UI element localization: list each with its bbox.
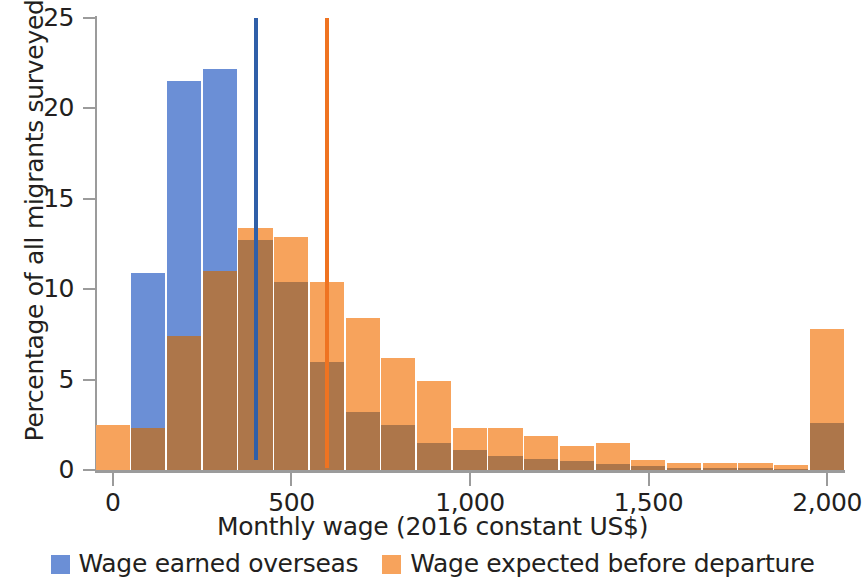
- legend-item[interactable]: Wage expected before departure: [382, 551, 814, 577]
- legend-item-label: Wage expected before departure: [410, 551, 814, 577]
- x-axis-tick: [112, 473, 114, 486]
- histogram-bar-overlap: [488, 456, 522, 470]
- x-axis-tick: [290, 473, 292, 486]
- histogram-bar-overlap: [381, 425, 415, 470]
- histogram-bar: [96, 425, 130, 470]
- histogram-bar-overlap: [417, 443, 451, 470]
- histogram-bar-overlap: [560, 461, 594, 470]
- median-wage-expected-before-departure: [325, 18, 329, 468]
- histogram-chart: 0510152025 Percentage of all migrants su…: [0, 0, 865, 585]
- y-axis-tick: [83, 469, 95, 471]
- histogram-bar-overlap: [167, 336, 201, 470]
- x-axis-tick: [648, 473, 650, 486]
- x-axis-tick: [826, 473, 828, 486]
- histogram-bar-overlap: [203, 271, 237, 470]
- y-axis-tick-label: 0: [30, 457, 74, 482]
- plot-area: [95, 18, 845, 470]
- y-axis-title: Percentage of all migrants surveyed: [21, 2, 48, 442]
- legend-item[interactable]: Wage earned overseas: [51, 551, 359, 577]
- histogram-bar-overlap: [453, 450, 487, 470]
- y-axis-tick: [83, 107, 95, 109]
- histogram-bar-overlap: [810, 423, 844, 470]
- y-axis-tick: [83, 379, 95, 381]
- x-axis-tick: [469, 473, 471, 486]
- chart-legend: Wage earned overseasWage expected before…: [0, 551, 865, 577]
- y-axis-tick: [83, 288, 95, 290]
- legend-item-label: Wage earned overseas: [79, 551, 359, 577]
- y-axis-tick: [83, 198, 95, 200]
- histogram-bar-overlap: [274, 282, 308, 470]
- legend-swatch-icon: [382, 555, 401, 574]
- histogram-bar-overlap: [131, 428, 165, 470]
- median-wage-earned-overseas: [254, 18, 258, 460]
- legend-swatch-icon: [51, 555, 70, 574]
- histogram-bar-overlap: [524, 459, 558, 470]
- y-axis-tick: [83, 17, 95, 19]
- histogram-bar-overlap: [346, 412, 380, 470]
- x-axis-title: Monthly wage (2016 constant US$): [0, 513, 865, 540]
